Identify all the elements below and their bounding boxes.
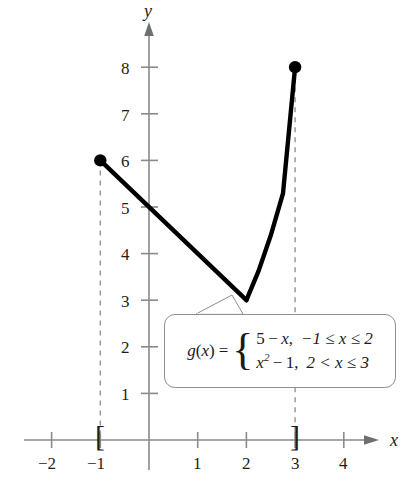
formula-equals: = [217, 341, 231, 361]
callout-pointer [196, 295, 243, 314]
x-axis-arrowhead [364, 435, 379, 444]
formula-callout-box: g(x) = { 5 − x, −1 ≤ x ≤ 2 x2 − 1, 2 < x… [164, 314, 396, 388]
formula-case-1: 5 − x, −1 ≤ x ≤ 2 [256, 329, 372, 349]
x-tick-label-minus2: −2 [38, 455, 56, 472]
formula-paren-close: ) [209, 341, 215, 360]
y-axis-label: y [144, 2, 152, 20]
formula-case-2-condition: 2 < x ≤ 3 [299, 353, 369, 373]
formula-function-name: g [187, 341, 196, 360]
y-tick-label-8: 8 [121, 60, 130, 77]
x-tick-label-3: 3 [291, 455, 300, 472]
curve-branch-linear [100, 160, 246, 300]
y-axis-arrowhead [144, 22, 154, 36]
endpoint-dot-left [94, 154, 106, 166]
function-graph-figure [0, 0, 419, 492]
formula-case-1-expression: 5 − x, [256, 329, 293, 349]
y-tick-label-3: 3 [121, 293, 130, 310]
interval-bracket-close: ] [290, 421, 300, 451]
x-tick-label-1: 1 [193, 455, 202, 472]
formula-brace: { [232, 330, 253, 370]
formula-variable: x [201, 341, 209, 360]
piecewise-formula: g(x) = { 5 − x, −1 ≤ x ≤ 2 x2 − 1, 2 < x… [165, 315, 395, 387]
y-tick-label-6: 6 [121, 153, 130, 170]
y-tick-label-1: 1 [121, 386, 130, 403]
x-tick-label-minus1: −1 [87, 455, 105, 472]
y-tick-label-7: 7 [121, 107, 130, 124]
formula-function-head: g(x) [187, 341, 214, 361]
y-tick-label-4: 4 [121, 246, 130, 263]
formula-cases: 5 − x, −1 ≤ x ≤ 2 x2 − 1, 2 < x ≤ 3 [256, 329, 372, 373]
interval-bracket-open: [ [95, 421, 105, 451]
formula-case-1-condition: −1 ≤ x ≤ 2 [293, 329, 373, 349]
y-tick-label-2: 2 [121, 339, 130, 356]
x-tick-label-4: 4 [339, 455, 348, 472]
endpoint-dot-right [289, 61, 301, 73]
formula-case-2-expression: x2 − 1, [256, 353, 298, 373]
y-tick-label-5: 5 [121, 200, 130, 217]
formula-case-2: x2 − 1, 2 < x ≤ 3 [256, 353, 372, 373]
x-tick-label-2: 2 [242, 455, 251, 472]
x-axis-label: x [390, 431, 398, 449]
curve-branch-quadratic [246, 67, 295, 300]
